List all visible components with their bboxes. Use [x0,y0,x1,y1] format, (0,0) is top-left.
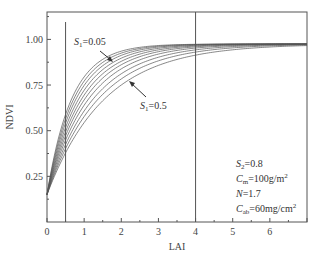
annotation-top-text: S1=0.05 [74,36,106,49]
annotation-bottom-curve: S1=0.5 [129,81,167,113]
curve-s1-0-10 [47,44,307,195]
curve-s1-0-05 [47,44,307,195]
annotation-top-curve: S1=0.05 [74,36,113,62]
parameter-line: S2=0.8 [236,158,263,171]
x-tick-label: 4 [193,226,198,237]
y-tick-label: 0.75 [26,80,44,91]
y-tick-label: 0.50 [26,125,44,136]
ndvi-lai-chart: 0123456 0.250.500.751.00 LAI NDVI S1=0.0… [0,0,314,257]
y-axis-title: NDVI [4,105,15,130]
x-tick-label: 5 [230,226,235,237]
parameter-legend: S2=0.8Cm=100g/m2N=1.7Cab=60mg/cm2 [235,158,297,216]
y-tick-label: 0.25 [26,171,44,182]
curve-series [47,44,307,195]
x-tick-label: 1 [82,226,87,237]
x-axis-ticks: 0123456 [45,218,308,237]
x-tick-label: 6 [267,226,272,237]
parameter-line: Cab=60mg/cm2 [236,202,297,216]
x-tick-label: 2 [119,226,124,237]
x-tick-label: 0 [45,226,50,237]
parameter-line: N=1.7 [235,188,261,199]
y-tick-label: 1.00 [26,34,44,45]
annotation-bottom-text: S1=0.5 [140,100,167,113]
curve-s1-0-15 [47,44,307,195]
x-tick-label: 3 [156,226,161,237]
parameter-line: Cm=100g/m2 [236,172,288,186]
x-axis-title: LAI [169,241,186,252]
